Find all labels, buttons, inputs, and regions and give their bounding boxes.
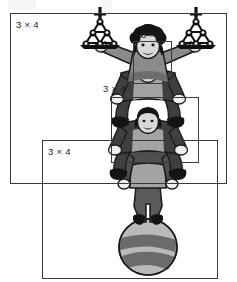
head-frame (133, 41, 172, 84)
base-frame-label: 3 × 4 (48, 146, 71, 157)
figure-canvas: 3 × 4 3 × 4 3 × 4 3 × 4 (0, 0, 237, 282)
head-frame-label: 3 × 4 (141, 29, 164, 40)
base-frame (42, 140, 218, 279)
middle-frame-label: 3 × 4 (103, 83, 126, 94)
outer-frame-label: 3 × 4 (16, 19, 39, 30)
cropped-text-artifact (8, 0, 208, 9)
